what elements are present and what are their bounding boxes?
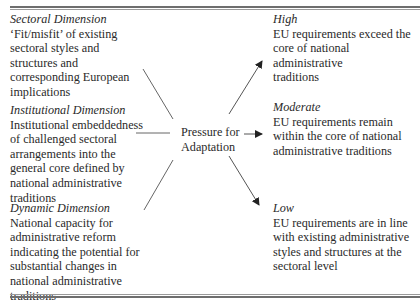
dynamic-connector-line bbox=[144, 160, 173, 210]
high-arrow bbox=[229, 61, 262, 114]
connector-lines bbox=[0, 0, 420, 304]
bottom-rule-thin bbox=[10, 294, 420, 295]
sectoral-connector-line bbox=[143, 69, 173, 119]
bottom-rule-thick bbox=[10, 296, 420, 298]
low-arrow bbox=[229, 156, 259, 205]
